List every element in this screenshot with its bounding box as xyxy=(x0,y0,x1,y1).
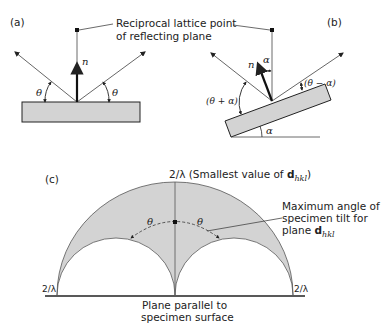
theta-c-left: θ xyxy=(147,216,153,227)
left-2-lambda-label: 2/λ xyxy=(42,284,57,294)
panel-b: (b) α n α (θ + α) (θ − α) xyxy=(206,16,343,137)
lattice-point-a xyxy=(75,28,79,32)
theta-plus-alpha-label: (θ + α) xyxy=(206,96,238,106)
theta-minus-alpha-label: (θ − α) xyxy=(304,78,336,88)
callout-line2: of reflecting plane xyxy=(116,30,212,42)
alpha-arc-bottom xyxy=(260,126,262,137)
reciprocal-lattice-diagram: (a) n θ θ Reciprocal lattice point of re… xyxy=(0,0,387,331)
bottom-label-line2: specimen surface xyxy=(141,311,234,323)
angle-arc-a-left xyxy=(45,82,51,102)
incident-ray-a xyxy=(15,52,77,102)
callout-line1: Reciprocal lattice point xyxy=(116,17,236,29)
panel-a-label: (a) xyxy=(10,16,25,28)
angle-arc-b-left xyxy=(239,82,246,114)
normal-label-a: n xyxy=(82,56,88,67)
normal-label-b: n xyxy=(248,59,254,70)
specimen-a xyxy=(22,102,140,122)
callout-leader-b xyxy=(233,25,270,30)
angle-arc-a-right xyxy=(103,82,109,102)
panel-c-label: (c) xyxy=(45,173,59,185)
max-tilt-line3: plane dhkl xyxy=(282,224,335,239)
max-tilt-line1: Maximum angle of xyxy=(282,200,380,212)
callout-leader-a xyxy=(79,24,113,30)
theta-c-right: θ xyxy=(197,216,203,227)
angle-arc-b-right xyxy=(301,83,302,90)
alpha-top-label: α xyxy=(263,54,270,65)
lattice-point-b xyxy=(270,28,274,32)
bottom-label-line1: Plane parallel to xyxy=(142,299,227,311)
max-tilt-line2: specimen tilt for xyxy=(282,212,368,224)
theta-a-left: θ xyxy=(36,87,42,98)
panel-b-label: (b) xyxy=(327,16,342,28)
panel-c: (c) θ θ Maximum angle of specimen tilt f… xyxy=(42,168,380,323)
reciprocal-lattice-callout: Reciprocal lattice point of reflecting p… xyxy=(79,17,270,42)
right-2-lambda-label: 2/λ xyxy=(294,284,309,294)
alpha-arc-top xyxy=(262,70,271,71)
smallest-d-label: 2/λ (Smallest value of dhkl) xyxy=(169,168,311,183)
alpha-bottom-label: α xyxy=(266,125,273,136)
lattice-point-c xyxy=(173,220,177,224)
theta-a-right: θ xyxy=(112,87,118,98)
